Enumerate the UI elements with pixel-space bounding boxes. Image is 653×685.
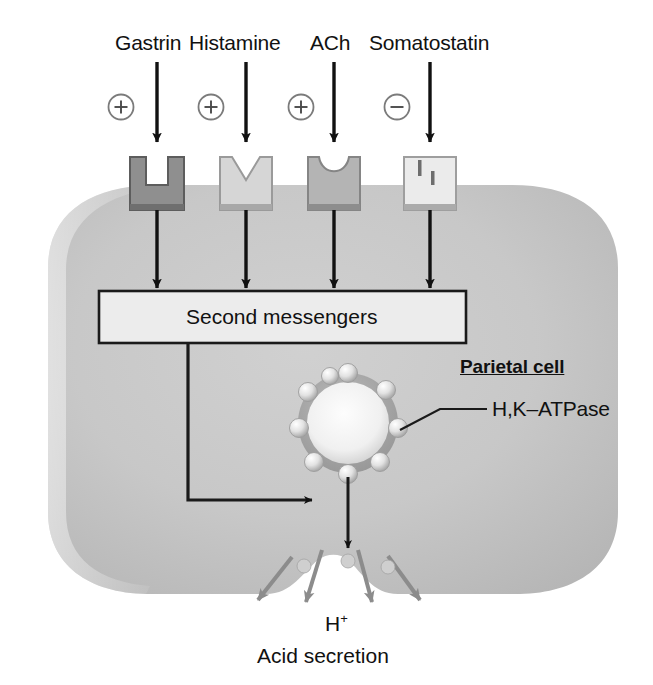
pump-bead <box>339 364 358 383</box>
receptor-gastrin <box>130 157 184 210</box>
pump-bead <box>377 381 396 400</box>
sign-badge-minus-somatostatin <box>385 95 410 120</box>
pump-bead <box>290 419 309 438</box>
sign-badge-plus-ach <box>289 95 314 120</box>
ligand-label-ach: ACh <box>310 32 350 53</box>
receptor-ach <box>308 157 360 210</box>
hydrogen-ion-symbol: H <box>325 612 340 635</box>
pump-bead <box>305 453 324 472</box>
second-messengers-label: Second messengers <box>186 306 377 327</box>
hk-atpase-label: H,K–ATPase <box>492 398 610 419</box>
sign-badges <box>109 95 410 120</box>
diagram-canvas <box>0 0 653 685</box>
ligand-label-gastrin: Gastrin <box>115 32 181 53</box>
ligand-arrows-top <box>157 62 430 142</box>
pump-bead <box>322 368 339 385</box>
parietal-cell-title: Parietal cell <box>460 357 564 376</box>
acid-secretion-caption: Acid secretion <box>257 645 389 666</box>
receptor-histamine <box>220 157 272 210</box>
pump-bead <box>371 453 390 472</box>
hydrogen-ion-charge: + <box>340 611 348 626</box>
receptor-somatostatin <box>404 157 456 210</box>
sign-badge-plus-gastrin <box>109 95 134 120</box>
parietal-cell-diagram: Gastrin Histamine ACh Somatostatin Secon… <box>0 0 653 685</box>
sign-badge-plus-histamine <box>199 95 224 120</box>
ligand-label-histamine: Histamine <box>189 32 281 53</box>
hydrogen-ion-label: H+ <box>325 612 348 634</box>
ligand-label-somatostatin: Somatostatin <box>369 32 489 53</box>
pump-bead <box>299 383 318 402</box>
